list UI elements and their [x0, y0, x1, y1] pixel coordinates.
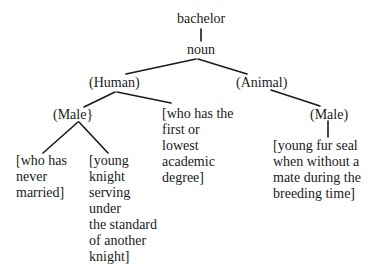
edge-male-knight — [79, 122, 108, 153]
gloss-line: knight — [89, 169, 157, 185]
edge-noun-human — [126, 59, 196, 74]
gloss-line: knight] — [89, 249, 157, 265]
edge-human-degree — [117, 92, 171, 103]
gloss-line: breeding time] — [273, 186, 361, 202]
node-noun: noun — [187, 42, 215, 58]
gloss-line: serving — [89, 185, 157, 201]
node-human: (Human) — [89, 75, 140, 91]
gloss-line: [who has the — [162, 106, 234, 122]
gloss-line: first or — [162, 122, 234, 138]
gloss-line: of another — [89, 233, 157, 249]
edge-human-male — [84, 92, 115, 107]
gloss-line: [young — [89, 153, 157, 169]
gloss-line: degree] — [162, 170, 234, 186]
node-animal-male: (Male) — [310, 107, 348, 123]
gloss-unmarried: [who has never married] — [16, 153, 67, 201]
edge-noun-animal — [198, 59, 247, 74]
gloss-line: married] — [16, 185, 67, 201]
gloss-line: under — [89, 201, 157, 217]
edge-animal-male — [271, 90, 320, 106]
gloss-knight: [young knight serving under the standard… — [89, 153, 157, 265]
node-animal: (Animal) — [236, 75, 287, 91]
node-bachelor: bachelor — [177, 11, 225, 27]
gloss-line: when without a — [273, 154, 361, 170]
gloss-line: the standard — [89, 217, 157, 233]
gloss-degree: [who has the first or lowest academic de… — [162, 106, 234, 186]
edge-male-unmarried — [43, 122, 78, 153]
gloss-seal: [young fur seal when without a mate duri… — [273, 138, 361, 202]
node-human-male: (Male} — [53, 107, 93, 123]
gloss-line: never — [16, 169, 67, 185]
gloss-line: mate during the — [273, 170, 361, 186]
gloss-line: [who has — [16, 153, 67, 169]
gloss-line: academic — [162, 154, 234, 170]
gloss-line: [young fur seal — [273, 138, 361, 154]
gloss-line: lowest — [162, 138, 234, 154]
